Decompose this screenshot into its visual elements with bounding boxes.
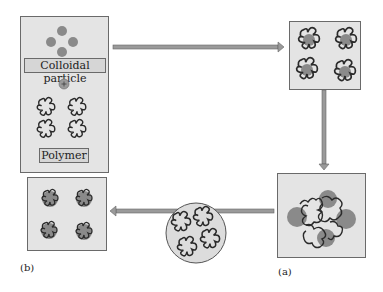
- diagram-graphics: [0, 0, 383, 292]
- depleted-particles-icon: [41, 189, 92, 240]
- free-polymer-solution-icon: [166, 203, 226, 263]
- bridging-flocculation-icon: [287, 190, 356, 248]
- arrow-down-icon: [319, 90, 329, 170]
- arrow-right-icon: [113, 42, 284, 52]
- polymer-coated-particles-icon: [297, 28, 357, 81]
- plus-icon: [59, 79, 69, 89]
- polymer-coils-icon: [37, 97, 86, 137]
- colloidal-particles-icon: [46, 26, 78, 57]
